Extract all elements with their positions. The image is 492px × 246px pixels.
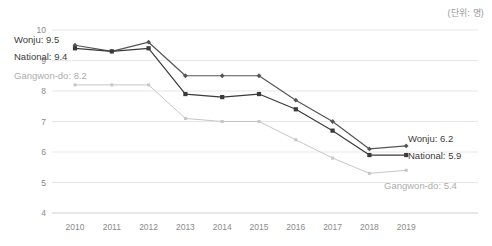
x-tick-label: 2010 <box>66 222 85 232</box>
y-tick-label: 6 <box>41 147 46 157</box>
y-tick-label: 4 <box>41 208 46 218</box>
x-tick-label: 2012 <box>139 222 158 232</box>
data-point <box>221 120 224 123</box>
data-point <box>367 153 371 157</box>
data-point <box>331 129 335 133</box>
chart-canvas: 45678910 2010201120122013201420152016201… <box>0 0 492 246</box>
data-point <box>73 46 77 50</box>
data-point <box>331 157 334 160</box>
data-point <box>184 117 187 120</box>
data-point <box>405 169 408 172</box>
data-point <box>368 172 371 175</box>
label-national-end: National: 5.9 <box>408 150 461 161</box>
data-point <box>404 144 409 149</box>
data-point <box>183 92 187 96</box>
data-point <box>147 83 150 86</box>
series-line-gangwon-do <box>75 85 406 173</box>
data-point <box>294 107 298 111</box>
x-axis-tick-labels: 2010201120122013201420152016201720182019 <box>66 222 416 232</box>
series-lines <box>75 42 406 173</box>
label-wonju-start: Wonju: 9.5 <box>14 34 59 45</box>
label-national-start: National: 9.4 <box>14 51 67 62</box>
data-point <box>294 138 297 141</box>
data-point <box>258 120 261 123</box>
x-tick-label: 2019 <box>397 222 416 232</box>
data-point <box>110 83 113 86</box>
data-point <box>220 73 225 78</box>
label-gangwondo-start: Gangwon-do: 8.2 <box>14 70 87 81</box>
x-tick-label: 2011 <box>103 222 122 232</box>
x-tick-label: 2014 <box>213 222 232 232</box>
x-tick-label: 2017 <box>323 222 342 232</box>
data-point <box>147 46 151 50</box>
label-gangwondo-end: Gangwon-do: 5.4 <box>384 180 457 191</box>
data-point <box>110 49 114 53</box>
x-tick-label: 2013 <box>176 222 195 232</box>
x-tick-label: 2016 <box>286 222 305 232</box>
x-tick-label: 2018 <box>360 222 379 232</box>
y-tick-label: 7 <box>41 117 46 127</box>
data-point <box>257 92 261 96</box>
line-chart: (단위: 명) 45678910 20102011201220132014201… <box>0 0 492 246</box>
x-tick-label: 2015 <box>250 222 269 232</box>
label-wonju-end: Wonju: 6.2 <box>408 133 453 144</box>
y-tick-label: 8 <box>41 86 46 96</box>
y-tick-label: 5 <box>41 178 46 188</box>
data-point <box>74 83 77 86</box>
data-point <box>220 95 224 99</box>
